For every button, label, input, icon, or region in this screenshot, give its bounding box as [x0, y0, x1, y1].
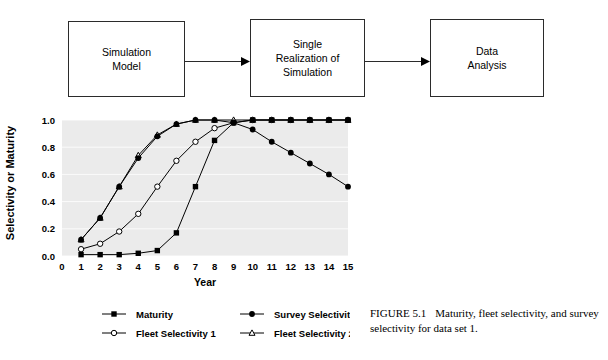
svg-text:5: 5 — [155, 261, 161, 272]
legend-marker-icon — [111, 311, 116, 316]
svg-text:1.0: 1.0 — [42, 115, 55, 126]
figure-caption-label: FIGURE 5.1 — [370, 307, 426, 319]
legend-item-label: Fleet Selectivity 2 — [274, 328, 350, 339]
svg-text:4: 4 — [136, 261, 142, 272]
arrow-right-icon — [365, 53, 431, 64]
figure-caption: FIGURE 5.1Maturity, fleet selectivity, a… — [370, 306, 602, 335]
chart-canvas: 0.00.20.40.60.81.0 012345678910111213141… — [0, 108, 360, 298]
arrow-right-icon — [185, 53, 251, 64]
svg-text:0.0: 0.0 — [42, 251, 55, 262]
legend-item: Fleet Selectivity 2 — [240, 328, 350, 339]
svg-text:9: 9 — [231, 261, 236, 272]
svg-text:0.6: 0.6 — [42, 169, 55, 180]
flow-box-simulation-model-label: Simulation Model — [102, 45, 151, 73]
flow-box-data-analysis-label: Data Analysis — [467, 44, 506, 72]
svg-text:11: 11 — [267, 261, 278, 272]
x-axis-tick-labels: 0123456789101112131415 — [59, 261, 354, 272]
svg-text:15: 15 — [343, 261, 354, 272]
svg-text:0.2: 0.2 — [42, 223, 55, 234]
plot-background — [62, 120, 348, 256]
flow-box-simulation-model: Simulation Model — [68, 21, 185, 97]
svg-text:0.4: 0.4 — [42, 196, 56, 207]
svg-text:10: 10 — [247, 261, 258, 272]
legend-item-label: Maturity — [136, 309, 174, 320]
svg-text:13: 13 — [305, 261, 316, 272]
svg-text:6: 6 — [174, 261, 179, 272]
legend-marker-icon — [249, 311, 255, 317]
svg-text:3: 3 — [117, 261, 122, 272]
svg-text:1: 1 — [78, 261, 84, 272]
svg-text:7: 7 — [193, 261, 198, 272]
legend-item-label: Survey Selectivity — [274, 309, 350, 320]
svg-text:12: 12 — [286, 261, 297, 272]
legend-item: Survey Selectivity — [240, 309, 350, 320]
process-flow-diagram: Simulation Model Single Realization of S… — [0, 0, 608, 108]
legend-item: Fleet Selectivity 1 — [102, 328, 216, 339]
x-axis-label: Year — [194, 276, 216, 288]
flow-box-single-realization: Single Realization of Simulation — [250, 19, 365, 97]
legend-item: Maturity — [102, 309, 174, 320]
legend-canvas: MaturitySurvey SelectivityFleet Selectiv… — [60, 300, 350, 348]
legend-item-label: Fleet Selectivity 1 — [136, 328, 216, 339]
svg-text:8: 8 — [212, 261, 217, 272]
y-axis-tick-labels: 0.00.20.40.60.81.0 — [42, 115, 56, 262]
svg-text:2: 2 — [97, 261, 102, 272]
y-axis-label: Selectivity or Maturity — [4, 125, 16, 240]
svg-text:0.8: 0.8 — [42, 142, 55, 153]
flow-box-data-analysis: Data Analysis — [430, 19, 544, 97]
svg-text:0: 0 — [59, 261, 64, 272]
legend-marker-icon — [111, 330, 116, 335]
chart-legend: MaturitySurvey SelectivityFleet Selectiv… — [60, 300, 350, 348]
svg-text:14: 14 — [324, 261, 335, 272]
selectivity-maturity-chart: 0.00.20.40.60.81.0 012345678910111213141… — [0, 108, 360, 298]
flow-box-single-realization-label: Single Realization of Simulation — [276, 37, 340, 79]
